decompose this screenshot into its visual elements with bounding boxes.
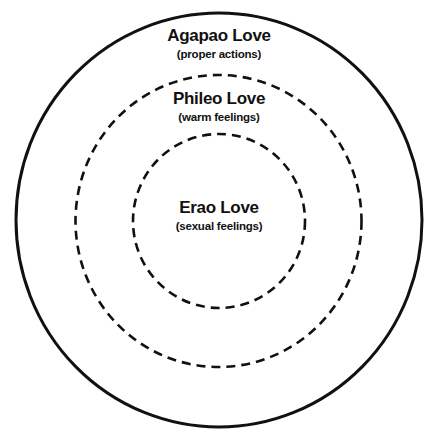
agapao-description: (proper actions) (177, 48, 262, 60)
phileo-description: (warm feelings) (178, 111, 260, 123)
love-circles-diagram: Agapao Love (proper actions) Phileo Love… (0, 0, 434, 446)
phileo-title: Phileo Love (173, 89, 265, 108)
agapao-title: Agapao Love (167, 26, 270, 45)
erao-description: (sexual feelings) (176, 220, 263, 232)
erao-title: Erao Love (179, 198, 259, 217)
